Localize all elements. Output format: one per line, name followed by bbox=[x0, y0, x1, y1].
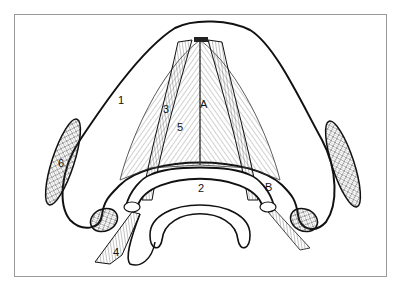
label-A: A bbox=[200, 98, 208, 110]
anatomy-diagram: 1 2 3 5 A B 4 6 bbox=[0, 0, 400, 287]
label-2: 2 bbox=[198, 182, 204, 194]
hyoid-arch-inner bbox=[150, 205, 250, 248]
label-4: 4 bbox=[113, 246, 119, 258]
label-6: 6 bbox=[58, 157, 64, 169]
label-5: 5 bbox=[177, 121, 183, 133]
label-3: 3 bbox=[163, 103, 169, 115]
hyoid-horn-left bbox=[124, 202, 140, 212]
label-B: B bbox=[265, 181, 272, 193]
symphysis-attachment bbox=[194, 37, 208, 42]
label-1: 1 bbox=[118, 94, 124, 106]
